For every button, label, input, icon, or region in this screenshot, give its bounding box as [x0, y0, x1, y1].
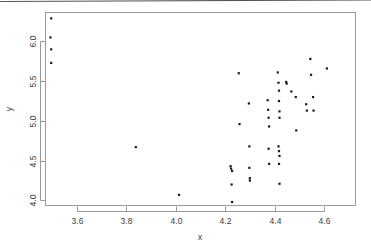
- data-point: [309, 58, 311, 60]
- data-point: [267, 99, 269, 101]
- data-point: [326, 67, 328, 69]
- data-point: [231, 201, 233, 203]
- data-points-layer: [49, 17, 328, 203]
- y-axis: 4.04.55.05.56.0: [28, 35, 45, 206]
- x-tick-label: 4.2: [220, 216, 232, 226]
- y-tick-label: 4.5: [28, 155, 38, 167]
- data-point: [278, 100, 280, 102]
- data-point: [267, 109, 269, 111]
- data-point: [295, 129, 297, 131]
- data-point: [249, 179, 251, 181]
- data-point: [178, 194, 180, 196]
- x-tick-label: 3.6: [72, 216, 84, 226]
- data-point: [278, 163, 280, 165]
- x-tick-label: 4.6: [319, 216, 331, 226]
- data-point: [278, 155, 280, 157]
- data-point: [238, 123, 240, 125]
- data-point: [278, 110, 280, 112]
- data-point: [310, 74, 312, 76]
- x-tick-label: 4.0: [171, 216, 183, 226]
- data-point: [50, 62, 52, 64]
- data-point: [277, 145, 279, 147]
- data-point: [306, 109, 308, 111]
- y-tick-label: 6.0: [28, 35, 38, 47]
- data-point: [248, 145, 250, 147]
- data-point: [268, 148, 270, 150]
- scatter-chart-canvas: 3.63.84.04.24.44.6 4.04.55.05.56.0 x y: [0, 0, 371, 249]
- data-point: [295, 96, 297, 98]
- data-point: [230, 168, 232, 170]
- data-point: [135, 146, 137, 148]
- data-point: [277, 71, 279, 73]
- x-tick-label: 3.8: [121, 216, 133, 226]
- data-point: [278, 90, 280, 92]
- data-point: [290, 90, 292, 92]
- data-point: [268, 125, 270, 127]
- data-point: [248, 167, 250, 169]
- y-tick-label: 5.5: [28, 75, 38, 87]
- data-point: [305, 103, 307, 105]
- y-tick-label: 5.0: [28, 115, 38, 127]
- x-tick-label: 4.4: [270, 216, 282, 226]
- data-point: [268, 163, 270, 165]
- data-point: [268, 117, 270, 119]
- data-point: [50, 48, 52, 50]
- data-point: [230, 165, 232, 167]
- data-point: [231, 183, 233, 185]
- data-point: [277, 82, 279, 84]
- data-point: [278, 183, 280, 185]
- data-point: [49, 36, 51, 38]
- x-axis: 3.63.84.04.24.44.6: [72, 207, 331, 227]
- data-point: [238, 72, 240, 74]
- data-point: [249, 177, 251, 179]
- y-axis-title: y: [4, 106, 14, 111]
- data-point: [312, 96, 314, 98]
- scatter-plot-figure: 3.63.84.04.24.44.6 4.04.55.05.56.0 x y: [0, 0, 371, 249]
- y-tick-label: 4.0: [28, 194, 38, 206]
- data-point: [278, 117, 280, 119]
- data-point: [50, 17, 52, 19]
- data-point: [312, 109, 314, 111]
- data-point: [248, 102, 250, 104]
- data-point: [278, 150, 280, 152]
- data-point: [231, 170, 233, 172]
- plot-frame: [46, 13, 356, 206]
- x-axis-title: x: [198, 232, 203, 242]
- data-point: [286, 82, 288, 84]
